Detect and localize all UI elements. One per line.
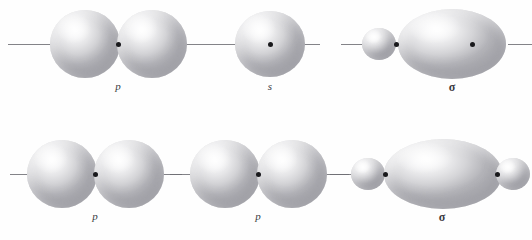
- nucleus-dot: [268, 42, 273, 47]
- orbital-label-sigma-orbital-top: σ: [449, 80, 456, 95]
- axis-line: [508, 44, 532, 45]
- nucleus-dot: [394, 42, 399, 47]
- nucleus-dot: [470, 42, 475, 47]
- orbital-lobe: [117, 10, 187, 78]
- orbital-lobe: [362, 28, 396, 60]
- orbital-label-sigma-orbital-bottom: σ: [439, 210, 446, 225]
- axis-line: [183, 44, 225, 45]
- axis-line: [8, 44, 54, 45]
- orbital-lobe: [257, 140, 327, 208]
- orbital-overlap-figure: psσppσ: [0, 0, 532, 240]
- orbital-lobe: [398, 9, 506, 79]
- nucleus-dot: [256, 172, 261, 177]
- nucleus-dot: [383, 172, 388, 177]
- orbital-label-p-orbital-top: p: [115, 80, 121, 92]
- orbital-label-s-orbital-top: s: [268, 80, 272, 92]
- orbital-label-p-orbital-bottom-left: p: [92, 210, 98, 222]
- orbital-lobe: [50, 10, 120, 78]
- orbital-label-p-orbital-bottom-right: p: [255, 210, 261, 222]
- axis-line: [170, 174, 190, 175]
- axis-line: [10, 174, 28, 175]
- orbital-lobe: [384, 139, 502, 209]
- orbital-lobe: [94, 140, 164, 208]
- nucleus-dot: [116, 42, 121, 47]
- orbital-lobe: [27, 140, 97, 208]
- orbital-lobe: [190, 140, 260, 208]
- nucleus-dot: [93, 172, 98, 177]
- nucleus-dot: [495, 172, 500, 177]
- orbital-lobe: [351, 158, 385, 190]
- orbital-lobe: [496, 158, 530, 190]
